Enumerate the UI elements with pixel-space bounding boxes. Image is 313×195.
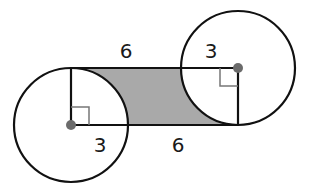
shaded-region: [71, 68, 238, 125]
right-center-dot: [233, 63, 243, 73]
left-center-dot: [66, 120, 76, 130]
bottom-length-label: 6: [172, 133, 185, 157]
right-radius-label: 3: [205, 39, 218, 63]
top-length-label: 6: [120, 39, 133, 63]
diagram-canvas: 6 3 3 6: [0, 0, 313, 195]
left-radius-label: 3: [94, 133, 107, 157]
